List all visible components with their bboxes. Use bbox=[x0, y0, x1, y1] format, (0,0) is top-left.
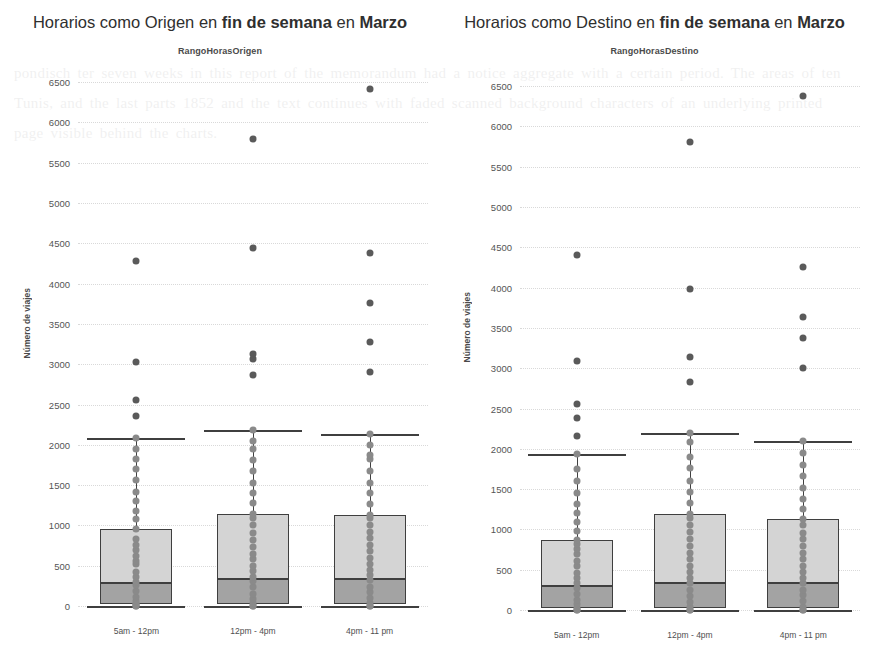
y-tick-label: 5000 bbox=[472, 202, 512, 213]
y-tick-label: 4500 bbox=[30, 238, 70, 249]
data-point[interactable] bbox=[366, 452, 373, 459]
y-tick-label: 1500 bbox=[30, 480, 70, 491]
y-tick-label: 0 bbox=[30, 601, 70, 612]
y-tick-label: 500 bbox=[472, 564, 512, 575]
data-point[interactable] bbox=[366, 490, 373, 497]
data-point[interactable] bbox=[366, 548, 373, 555]
data-point[interactable] bbox=[366, 430, 373, 437]
title-bold-2: Marzo bbox=[797, 13, 845, 31]
data-point[interactable] bbox=[800, 506, 807, 513]
charts-container: Horarios como Origen en fin de semana en… bbox=[0, 0, 869, 663]
data-point[interactable] bbox=[800, 485, 807, 492]
x-tick-label: 4pm - 11 pm bbox=[346, 626, 393, 636]
y-tick-label: 6000 bbox=[472, 121, 512, 132]
data-point[interactable] bbox=[366, 535, 373, 542]
chart-destino: Horarios como Destino en fin de semana e… bbox=[440, 0, 869, 663]
title-part-2: en bbox=[332, 13, 360, 31]
title-part-1: Horarios como Origen en bbox=[33, 13, 222, 31]
y-tick-label: 6500 bbox=[472, 81, 512, 92]
y-tick-label: 2500 bbox=[472, 403, 512, 414]
outlier-point[interactable] bbox=[800, 313, 807, 320]
y-tick-label: 2500 bbox=[30, 399, 70, 410]
y-tick-label: 6000 bbox=[30, 117, 70, 128]
data-point[interactable] bbox=[800, 515, 807, 522]
y-tick-label: 5500 bbox=[30, 157, 70, 168]
y-tick-label: 0 bbox=[472, 605, 512, 616]
y-tick-label: 3500 bbox=[30, 318, 70, 329]
outlier-point[interactable] bbox=[800, 263, 807, 270]
chart-origen: Horarios como Origen en fin de semana en… bbox=[0, 0, 440, 663]
chart-title-destino: Horarios como Destino en fin de semana e… bbox=[440, 13, 869, 32]
outlier-point[interactable] bbox=[366, 299, 373, 306]
outlier-point[interactable] bbox=[800, 365, 807, 372]
data-point[interactable] bbox=[800, 536, 807, 543]
x-tick-label: 12pm - 4pm bbox=[230, 626, 275, 636]
y-tick-label: 6500 bbox=[30, 77, 70, 88]
data-point[interactable] bbox=[366, 554, 373, 561]
y-tick-label: 3500 bbox=[472, 322, 512, 333]
title-part-1: Horarios como Destino en bbox=[464, 13, 659, 31]
y-tick-label: 1500 bbox=[472, 484, 512, 495]
chart-title-origen: Horarios como Origen en fin de semana en… bbox=[0, 13, 440, 32]
legend-title-destino: RangoHorasDestino bbox=[440, 46, 869, 56]
y-tick-label: 4000 bbox=[472, 282, 512, 293]
y-tick-label: 1000 bbox=[30, 520, 70, 531]
outlier-point[interactable] bbox=[366, 249, 373, 256]
box-plot-group[interactable] bbox=[520, 70, 860, 610]
title-bold-1: fin de semana bbox=[660, 13, 770, 31]
y-tick-label: 1000 bbox=[472, 524, 512, 535]
data-point[interactable] bbox=[366, 500, 373, 507]
outlier-point[interactable] bbox=[800, 335, 807, 342]
y-tick-label: 5000 bbox=[30, 198, 70, 209]
data-point[interactable] bbox=[800, 543, 807, 550]
x-tick-label: 5am - 12pm bbox=[114, 626, 159, 636]
data-point[interactable] bbox=[800, 529, 807, 536]
data-point[interactable] bbox=[366, 561, 373, 568]
data-point[interactable] bbox=[800, 586, 807, 593]
data-point[interactable] bbox=[800, 569, 807, 576]
legend-title-origen: RangoHorasOrigen bbox=[0, 46, 440, 56]
outlier-point[interactable] bbox=[366, 338, 373, 345]
y-tick-label: 3000 bbox=[30, 359, 70, 370]
x-tick-label: 5am - 12pm bbox=[554, 630, 599, 640]
data-point[interactable] bbox=[366, 521, 373, 528]
y-tick-label: 2000 bbox=[472, 443, 512, 454]
x-tick-label: 4pm - 11 pm bbox=[780, 630, 827, 640]
y-tick-label: 3000 bbox=[472, 363, 512, 374]
y-axis-label-destino: Número de viajes bbox=[462, 292, 472, 362]
outlier-point[interactable] bbox=[366, 369, 373, 376]
box-plot-group[interactable] bbox=[78, 66, 428, 606]
y-tick-label: 4500 bbox=[472, 242, 512, 253]
y-tick-label: 500 bbox=[30, 560, 70, 571]
data-point[interactable] bbox=[366, 479, 373, 486]
data-point[interactable] bbox=[800, 522, 807, 529]
data-point[interactable] bbox=[366, 511, 373, 518]
plot-area-origen: 0500100015002000250030003500400045005000… bbox=[78, 66, 428, 606]
data-point[interactable] bbox=[366, 541, 373, 548]
title-bold-2: Marzo bbox=[359, 13, 407, 31]
data-point[interactable] bbox=[800, 556, 807, 563]
data-point[interactable] bbox=[800, 437, 807, 444]
data-point[interactable] bbox=[800, 562, 807, 569]
data-point[interactable] bbox=[800, 449, 807, 456]
data-point[interactable] bbox=[800, 473, 807, 480]
data-point[interactable] bbox=[366, 528, 373, 535]
outlier-point[interactable] bbox=[366, 86, 373, 93]
data-point[interactable] bbox=[366, 467, 373, 474]
data-point[interactable] bbox=[800, 461, 807, 468]
data-point[interactable] bbox=[800, 495, 807, 502]
plot-area-destino: 0500100015002000250030003500400045005000… bbox=[520, 70, 860, 610]
title-bold-1: fin de semana bbox=[222, 13, 332, 31]
x-tick-label: 12pm - 4pm bbox=[667, 630, 712, 640]
data-point[interactable] bbox=[366, 583, 373, 590]
outlier-point[interactable] bbox=[800, 92, 807, 99]
data-point[interactable] bbox=[800, 549, 807, 556]
data-point[interactable] bbox=[366, 441, 373, 448]
y-tick-label: 4000 bbox=[30, 278, 70, 289]
y-tick-label: 5500 bbox=[472, 161, 512, 172]
y-tick-label: 2000 bbox=[30, 439, 70, 450]
title-part-2: en bbox=[770, 13, 798, 31]
